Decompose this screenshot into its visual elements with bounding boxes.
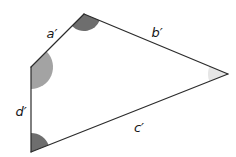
side-label-a: a′ <box>47 26 58 41</box>
side-label-c: c′ <box>134 120 144 135</box>
side-label-b: b′ <box>151 25 162 40</box>
side-label-d: d′ <box>15 104 26 119</box>
quadrilateral-svg: a′ b′ c′ d′ <box>0 0 236 157</box>
geometry-figure: a′ b′ c′ d′ <box>0 0 236 157</box>
